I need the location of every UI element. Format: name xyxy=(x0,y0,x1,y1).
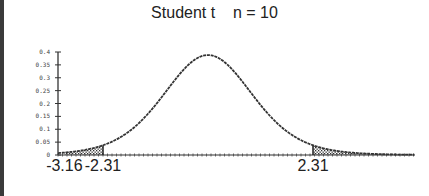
density-curve xyxy=(58,55,414,155)
y-tick-label: 0.4 xyxy=(39,48,50,55)
y-tick-label: 0.25 xyxy=(36,87,51,94)
y-tick-label: 0.15 xyxy=(36,112,51,119)
x-annotation-label: -2.31 xyxy=(85,157,122,174)
x-annotation-labels: -3.16-2.312.31 xyxy=(46,157,329,174)
y-tick-label: 0.05 xyxy=(36,138,51,145)
x-annotation-label: 2.31 xyxy=(297,157,328,174)
x-annotation-label: -3.16 xyxy=(46,157,83,174)
y-tick-label: 0.1 xyxy=(39,125,50,132)
y-tick-label: 0.2 xyxy=(39,100,50,107)
y-tick-label: 0.35 xyxy=(36,61,51,68)
chart-plot: 00.050.10.150.20.250.30.350.4 -3.16-2.31… xyxy=(0,0,429,196)
x-axis xyxy=(58,145,415,156)
y-tick-label: 0.3 xyxy=(39,74,50,81)
y-axis: 00.050.10.150.20.250.30.350.4 xyxy=(36,48,61,158)
